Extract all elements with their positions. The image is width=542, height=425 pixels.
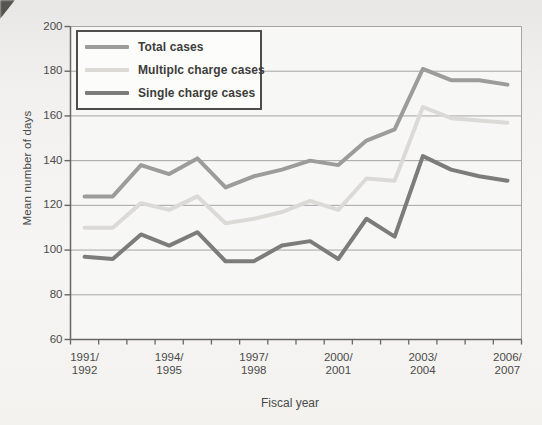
y-tick-label-180: 180 bbox=[29, 64, 63, 77]
x-tick-label-1994-1995: 1994/1995 bbox=[139, 351, 199, 377]
x-tick-label-2000-2001: 2000/2001 bbox=[308, 351, 368, 377]
legend-label-multiple-charge-cases: Multiplc charge cases bbox=[138, 63, 265, 77]
single-charge-cases-line-swatch bbox=[85, 91, 129, 95]
y-tick-label-120: 120 bbox=[29, 198, 63, 211]
y-tick-label-60: 60 bbox=[29, 333, 63, 346]
legend-item-single-charge-cases: Single charge cases bbox=[85, 85, 260, 100]
y-tick-label-80: 80 bbox=[29, 288, 63, 301]
y-tick-label-200: 200 bbox=[29, 20, 63, 33]
x-tick-label-1997-1998: 1997/1998 bbox=[224, 351, 284, 377]
y-tick-label-140: 140 bbox=[29, 154, 63, 167]
legend-item-multiple-charge-cases: Multiplc charge cases bbox=[85, 62, 260, 77]
legend-item-total-cases: Total cases bbox=[85, 39, 260, 54]
y-tick-label-160: 160 bbox=[29, 109, 63, 122]
legend-label-total-cases: Total cases bbox=[138, 40, 204, 54]
x-tick-label-2003-2004: 2003/2004 bbox=[393, 351, 453, 377]
legend-label-single-charge-cases: Single charge cases bbox=[138, 86, 255, 100]
chart-figure: Mean number of days Fiscal year Total ca… bbox=[0, 0, 542, 425]
x-tick-label-2006-2007: 2006/2007 bbox=[477, 351, 537, 377]
total-cases-line-swatch bbox=[85, 45, 129, 49]
multiple-charge-cases-line-swatch bbox=[85, 68, 129, 72]
x-axis-title: Fiscal year bbox=[230, 396, 350, 410]
chart-legend: Total cases Multiplc charge cases Single… bbox=[76, 30, 262, 110]
y-tick-label-100: 100 bbox=[29, 243, 63, 256]
x-tick-label-1991-1992: 1991/1992 bbox=[55, 351, 115, 377]
